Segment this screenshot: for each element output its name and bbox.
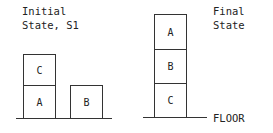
floor-label: FLOOR <box>213 112 245 125</box>
block-a-final: A <box>154 14 187 50</box>
block-c-initial: C <box>23 54 56 86</box>
final-state-title-line2: State <box>213 19 245 32</box>
block-b-initial: B <box>70 85 103 119</box>
initial-state-title-line1: Initial <box>22 5 66 18</box>
initial-state-title-line2: State, S1 <box>22 19 79 32</box>
block-a-initial: A <box>23 85 56 119</box>
block-c-final: C <box>154 83 187 118</box>
final-state-title-line1: Final <box>213 5 245 18</box>
block-b-final: B <box>154 49 187 84</box>
floor-line-initial <box>16 118 112 119</box>
floor-line-final <box>143 117 207 118</box>
